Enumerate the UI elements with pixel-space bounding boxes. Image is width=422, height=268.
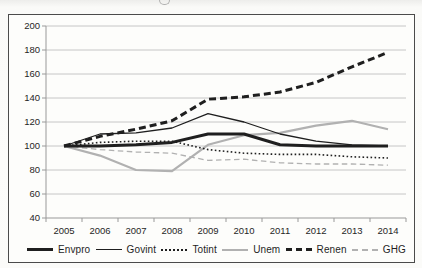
legend-label: GHG [383, 244, 406, 255]
legend-item-ghg: GHG [352, 244, 406, 255]
series-line-govint [64, 114, 388, 146]
legend-swatch-ghg [352, 249, 378, 251]
legend-item-envpro: Envpro [27, 244, 90, 255]
y-axis-label: 40 [29, 212, 40, 223]
chart-legend: EnvproGovintTotintUnemRenenGHG [27, 242, 406, 257]
legend-swatch-totint [161, 249, 187, 251]
x-axis-label: 2006 [89, 225, 110, 236]
legend-swatch-envpro [27, 248, 53, 251]
legend-label: Unem [253, 244, 280, 255]
y-axis-label: 100 [24, 140, 40, 151]
x-axis-label: 2008 [161, 225, 182, 236]
y-axis-label: 180 [24, 44, 40, 55]
legend-swatch-renen [286, 248, 312, 251]
legend-label: Renen [317, 244, 347, 255]
x-axis-label: 2005 [53, 225, 74, 236]
x-axis-label: 2009 [197, 225, 218, 236]
y-axis-label: 60 [29, 188, 40, 199]
y-axis-label: 120 [24, 116, 40, 127]
chart-figure: 4060801001201401601802002005200620072008… [0, 0, 422, 268]
y-axis-label: 160 [24, 68, 40, 79]
legend-label: Envpro [58, 244, 90, 255]
x-axis-label: 2010 [233, 225, 254, 236]
y-axis-label: 200 [24, 20, 40, 31]
legend-item-totint: Totint [161, 244, 217, 255]
y-axis-label: 140 [24, 92, 40, 103]
legend-label: Totint [192, 244, 217, 255]
series-line-renen [64, 52, 388, 146]
x-axis-label: 2014 [377, 225, 398, 236]
legend-swatch-unem [222, 249, 248, 251]
legend-item-unem: Unem [222, 244, 280, 255]
legend-item-renen: Renen [286, 244, 347, 255]
x-axis-label: 2007 [125, 225, 146, 236]
x-axis-label: 2013 [341, 225, 362, 236]
plot-area: 4060801001201401601802002005200620072008… [0, 0, 422, 268]
x-axis-label: 2011 [270, 225, 290, 236]
legend-label: Govint [127, 244, 157, 255]
y-axis-label: 80 [29, 164, 40, 175]
legend-item-govint: Govint [96, 244, 157, 255]
x-axis-label: 2012 [305, 225, 326, 236]
legend-swatch-govint [96, 249, 122, 250]
